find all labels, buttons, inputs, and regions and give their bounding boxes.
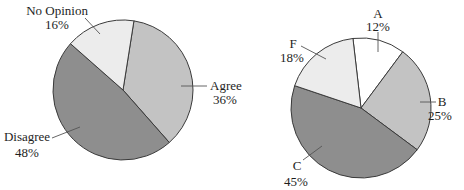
f-label: F <box>289 36 296 51</box>
opinion-pie-chart <box>53 20 193 160</box>
agree-pct: 36% <box>213 92 237 107</box>
disagree-label: Disagree <box>4 129 50 144</box>
charts-canvas: English Grades No Opinion 16% Agree 36% … <box>0 0 464 190</box>
b-label: B <box>438 94 447 109</box>
disagree-pct: 48% <box>15 145 39 160</box>
c-pct: 45% <box>284 174 308 189</box>
agree-label: Agree <box>210 78 242 93</box>
no-opinion-label: No Opinion <box>26 3 88 18</box>
b-pct: 25% <box>428 108 452 123</box>
english-grades-pie-chart <box>291 38 431 178</box>
f-pct: 18% <box>280 50 304 65</box>
a-pct: 12% <box>366 19 390 34</box>
c-label: C <box>293 158 302 173</box>
no-opinion-pct: 16% <box>45 17 69 32</box>
